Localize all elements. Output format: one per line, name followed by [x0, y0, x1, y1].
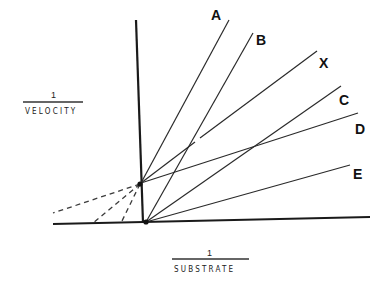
line-x-lower [141, 142, 195, 183]
line-b [146, 33, 253, 222]
line-label-e: E [353, 166, 362, 182]
dashed-extrapolation-1 [53, 184, 140, 213]
line-label-b: B [256, 32, 266, 48]
upper-intercept-point [137, 181, 142, 186]
line-label-a: A [211, 7, 221, 23]
lower-intercept-point [143, 219, 148, 224]
dashed-extrapolation-3 [121, 184, 140, 223]
x-axis [53, 217, 370, 224]
x-label-numerator: 1 [207, 248, 212, 258]
line-label-d: D [355, 121, 365, 137]
y-label-numerator: 1 [51, 90, 56, 100]
y-label-denominator: VELOCITY [25, 107, 77, 116]
line-e [146, 165, 350, 222]
dashed-extrapolation-2 [93, 184, 140, 223]
line-label-x: X [319, 55, 329, 71]
y-axis [136, 20, 143, 223]
x-label-denominator: SUBSTRATE [174, 265, 235, 274]
lineweaver-burk-diagram: A B X C D E 1 VELOCITY 1 SUBSTRATE [0, 0, 388, 287]
line-label-c: C [339, 92, 349, 108]
